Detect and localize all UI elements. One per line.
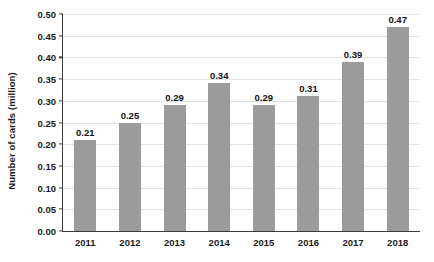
bar-value-label: 0.34 [210,70,229,81]
y-tick-label: 0.15 [38,160,64,171]
x-tick-label: 2016 [298,237,319,248]
x-tick-label: 2013 [164,237,185,248]
gridline [63,14,420,15]
bar-value-label: 0.31 [299,83,318,94]
bar-chart: Number of cards (million) 0.000.050.100.… [0,0,434,262]
bar-value-label: 0.29 [255,92,274,103]
bar [74,140,96,231]
gridline [63,209,420,210]
y-tick-label: 0.00 [38,226,64,237]
y-tick-label: 0.30 [38,95,64,106]
gridline [63,36,420,37]
bar [164,105,186,231]
x-tick-label: 2017 [342,237,363,248]
gridline [63,144,420,145]
bar-value-label: 0.47 [388,14,407,25]
bar [387,27,409,231]
bar-value-label: 0.25 [121,110,140,121]
gridline [63,188,420,189]
bar-value-label: 0.29 [165,92,184,103]
y-tick-label: 0.10 [38,182,64,193]
gridline [63,166,420,167]
gridline [63,101,420,102]
gridline [63,123,420,124]
y-tick-label: 0.20 [38,139,64,150]
y-tick-label: 0.05 [38,204,64,215]
bar-value-label: 0.39 [344,49,363,60]
y-tick-label: 0.35 [38,74,64,85]
bar [253,105,275,231]
gridline [63,57,420,58]
x-tick-label: 2018 [387,237,408,248]
bar [297,96,319,231]
x-tick-label: 2011 [75,237,96,248]
y-tick-label: 0.45 [38,30,64,41]
bar [119,123,141,232]
y-tick-label: 0.50 [38,9,64,20]
y-axis-title: Number of cards (million) [0,0,22,262]
bar [342,62,364,231]
x-tick-label: 2015 [253,237,274,248]
plot-area: 0.000.050.100.150.200.250.300.350.400.45… [62,14,420,232]
bar [208,83,230,231]
y-tick-label: 0.25 [38,117,64,128]
gridline [63,79,420,80]
x-tick-label: 2012 [119,237,140,248]
x-tick-label: 2014 [209,237,230,248]
bar-value-label: 0.21 [76,127,95,138]
y-tick-label: 0.40 [38,52,64,63]
